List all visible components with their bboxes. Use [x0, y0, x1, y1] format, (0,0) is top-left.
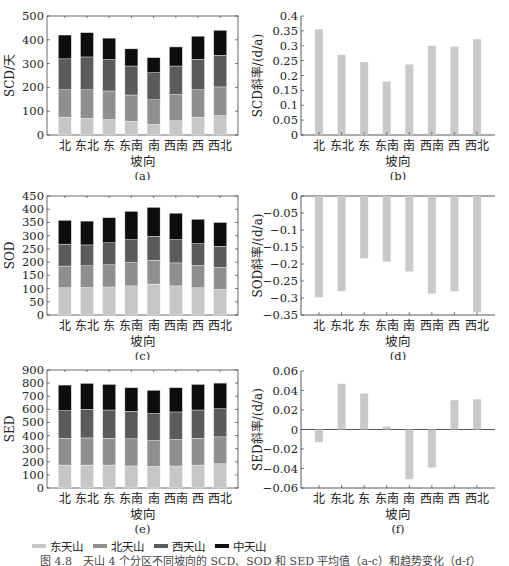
bar	[360, 196, 368, 258]
bar-segment	[125, 388, 138, 412]
x-tick-label: 西北	[208, 492, 232, 506]
bar-segment	[125, 411, 138, 439]
x-tick-label: 东北	[75, 319, 99, 333]
x-axis-label: 坡向	[385, 334, 411, 349]
y-tick-label: 0	[37, 308, 44, 322]
bar-segment	[169, 213, 182, 239]
bar-segment	[103, 438, 116, 465]
bar-segment	[80, 409, 93, 438]
chart-b-svg: 00.050.10.150.20.250.30.350.4北东北东东南南西南西西…	[250, 0, 509, 180]
bar	[383, 196, 391, 262]
x-tick-label: 东	[358, 139, 370, 153]
x-tick-label: 东	[103, 492, 115, 506]
bar-segment	[214, 289, 227, 315]
bar-segment	[58, 90, 71, 117]
x-tick-label: 东北	[330, 319, 354, 333]
y-tick-label: 400	[22, 202, 44, 216]
chart-panel-f: 0.060.040.020−0.02−0.04−0.06北东北东东南南西南西西北…	[250, 360, 509, 538]
bar	[428, 46, 436, 135]
bar-segment	[103, 410, 116, 438]
y-tick-label: 250	[22, 242, 44, 256]
y-tick-label: −0.1	[270, 223, 298, 237]
bar-segment	[147, 284, 160, 315]
x-tick-label: 西北	[465, 492, 489, 506]
bar-segment	[169, 47, 182, 66]
plot-frame	[47, 370, 238, 488]
bar-segment	[214, 437, 227, 464]
x-tick-label: 东北	[75, 139, 99, 153]
bar	[450, 400, 458, 429]
bar-segment	[192, 465, 205, 488]
y-tick-label: −0.2	[270, 257, 298, 271]
bar-segment	[125, 49, 138, 66]
x-axis-label: 坡向	[130, 334, 156, 349]
bar-segment	[80, 33, 93, 57]
x-tick-label: 东北	[75, 492, 99, 506]
bar-segment	[169, 263, 182, 286]
bar-segment	[147, 441, 160, 467]
bar-segment	[192, 410, 205, 438]
y-tick-label: 100	[22, 468, 44, 482]
bar-segment	[103, 243, 116, 265]
y-tick-label: 50	[29, 295, 44, 309]
chart-panel-e: 0100200300400500600700800900北东北东东南南西南西西北…	[0, 360, 250, 538]
bar	[450, 196, 458, 291]
x-tick-label: 西南	[420, 491, 444, 506]
bar-segment	[214, 409, 227, 437]
y-tick-label: 100	[22, 104, 44, 118]
x-tick-label: 西南	[164, 491, 188, 506]
y-tick-label: 0.4	[280, 9, 298, 23]
bar-segment	[58, 266, 71, 288]
y-tick-label: 500	[22, 415, 44, 429]
bar-segment	[103, 265, 116, 287]
x-tick-label: 西南	[164, 138, 188, 153]
legend-swatch-north	[93, 544, 107, 548]
bar	[383, 427, 391, 430]
x-axis-label: 坡向	[130, 154, 156, 169]
x-tick-label: 东南	[375, 138, 399, 153]
y-tick-label: 300	[22, 229, 44, 243]
bar-segment	[147, 207, 160, 236]
bar-segment	[214, 246, 227, 267]
bar-segment	[214, 87, 227, 116]
panel-letter: (d)	[390, 349, 406, 360]
bar-segment	[125, 240, 138, 263]
y-axis-label: SOD斜率/(d/a)	[250, 214, 265, 298]
bar-segment	[125, 211, 138, 239]
bar	[405, 196, 413, 271]
bar-segment	[169, 95, 182, 121]
y-axis-label: SOD	[3, 242, 17, 270]
bar-segment	[103, 218, 116, 243]
bar-segment	[80, 465, 93, 488]
x-axis-label: 坡向	[130, 507, 156, 522]
y-tick-label: −0.25	[263, 274, 298, 288]
bar-segment	[147, 236, 160, 260]
x-tick-label: 西南	[164, 318, 188, 333]
bar-segment	[214, 30, 227, 55]
bar-segment	[147, 73, 160, 100]
bar	[315, 430, 323, 443]
y-tick-label: 0.06	[272, 364, 298, 378]
x-tick-label: 东	[358, 319, 370, 333]
bar-segment	[214, 464, 227, 488]
y-tick-label: −0.05	[263, 206, 298, 220]
y-tick-label: 800	[22, 376, 44, 390]
bar-segment	[58, 438, 71, 465]
x-tick-label: 东南	[119, 318, 143, 333]
bar-segment	[169, 412, 182, 440]
x-tick-label: 南	[148, 318, 160, 333]
y-tick-label: −0.06	[263, 481, 298, 495]
bar-segment	[58, 288, 71, 315]
x-tick-label: 西南	[420, 138, 444, 153]
figure-caption: 图 4.8 天山 4 个分区不同坡向的 SCD、SOD 和 SED 平均值（a-…	[40, 552, 481, 566]
y-tick-label: 0	[291, 189, 298, 203]
y-tick-label: 150	[22, 268, 44, 282]
y-tick-label: 400	[22, 429, 44, 443]
bar-segment	[58, 385, 71, 411]
bar-segment	[103, 465, 116, 488]
bar-segment	[192, 266, 205, 288]
x-tick-label: 西	[448, 139, 460, 153]
bar-segment	[80, 266, 93, 288]
bar	[450, 47, 458, 135]
bar	[338, 196, 346, 291]
